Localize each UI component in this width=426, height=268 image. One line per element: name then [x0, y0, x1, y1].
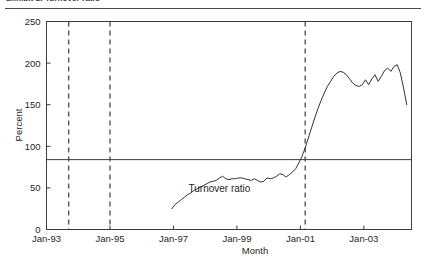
y-tick-label-200: 200	[25, 58, 41, 69]
y-tick-label-100: 100	[25, 141, 41, 152]
x-axis-tick-labels: Jan-93Jan-95Jan-97Jan-99Jan-01Jan-03	[32, 233, 378, 244]
x-tick-label-Jan-93: Jan-93	[32, 233, 61, 244]
chart-annotations: Turnover ratio	[189, 183, 251, 194]
y-tick-label-50: 50	[30, 182, 41, 193]
figure-root: Exhibit 2. Turnover ratio 05010015020025…	[0, 0, 426, 268]
x-tick-label-Jan-97: Jan-97	[159, 233, 188, 244]
turnover-ratio-line-chart: 050100150200250 Jan-93Jan-95Jan-97Jan-99…	[0, 0, 426, 268]
x-tick-label-Jan-03: Jan-03	[349, 233, 378, 244]
series-label: Turnover ratio	[189, 183, 251, 194]
y-tick-label-250: 250	[25, 16, 41, 27]
y-tick-label-150: 150	[25, 99, 41, 110]
plot-area-frame	[47, 22, 412, 230]
y-axis-tick-labels: 050100150200250	[25, 16, 41, 235]
x-tick-label-Jan-95: Jan-95	[95, 233, 124, 244]
y-axis-title: Percent	[13, 108, 24, 141]
x-tick-label-Jan-01: Jan-01	[286, 233, 315, 244]
x-tick-label-Jan-99: Jan-99	[222, 233, 251, 244]
x-axis-title: Month	[242, 245, 268, 256]
